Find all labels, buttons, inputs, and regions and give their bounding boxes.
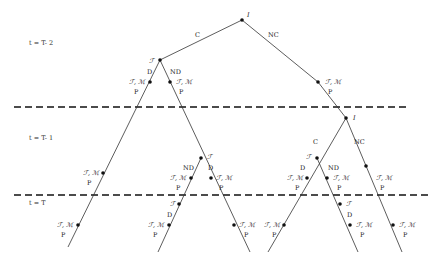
edge-NC	[242, 20, 318, 82]
label-P-tm1-left: P	[87, 180, 91, 187]
label-F-left: ℱ	[149, 58, 154, 65]
node-FM-left-ND	[168, 80, 172, 84]
node-FM-T-3	[232, 223, 236, 227]
label-FM-mid-D: ℱ, ℳ	[216, 175, 232, 182]
label-P-NC: P	[328, 89, 332, 96]
node-F-T-right	[338, 202, 342, 206]
label-P-right-ND: P	[337, 185, 341, 192]
node-FM-right-NC	[364, 164, 368, 168]
edge-D-left	[68, 60, 160, 247]
label-FM-T-3: ℱ, ℳ	[239, 222, 255, 229]
label-P-T-4: P	[272, 232, 276, 239]
node-root-I	[240, 18, 244, 22]
label-F-mid: ℱ	[207, 154, 212, 161]
label-root-I: I	[247, 12, 250, 19]
node-FM-T-2	[167, 223, 171, 227]
label-P-T-2: P	[153, 232, 157, 239]
node-FM-mid-ND	[189, 176, 193, 180]
edge-C-right	[268, 118, 346, 252]
node-F-left	[158, 58, 162, 62]
label-FM-left-D: ℱ, ℳ	[129, 79, 145, 86]
label-edge-D-left: D	[147, 69, 152, 76]
node-FM-right-D	[305, 176, 309, 180]
period-label-T: t = T	[29, 200, 46, 207]
label-FM-T-6: ℱ, ℳ	[399, 222, 415, 229]
label-P-left-ND: P	[179, 89, 183, 96]
edge-NC-cont	[318, 82, 346, 118]
node-F-right	[315, 156, 319, 160]
node-FM-left-D	[148, 80, 152, 84]
label-FM-T-4: ℱ, ℳ	[264, 222, 280, 229]
label-edge-C-right: C	[313, 139, 318, 146]
label-FM-T-1: ℱ, ℳ	[57, 222, 73, 229]
label-F-T-right: ℱ	[346, 201, 351, 208]
label-FM-left-ND: ℱ, ℳ	[176, 79, 192, 86]
label-edge-C: C	[195, 32, 200, 39]
label-FM-T-5: ℱ, ℳ	[356, 222, 372, 229]
label-P-right-NC: P	[380, 185, 384, 192]
label-FM-NC: ℱ, ℳ	[325, 79, 341, 86]
label-P-left-D: P	[134, 89, 138, 96]
node-I-right	[344, 116, 348, 120]
label-edge-D-T-right: D	[347, 212, 352, 219]
node-FM-T-1	[76, 223, 80, 227]
label-FM-tm1-left: ℱ, ℳ	[83, 170, 99, 177]
node-FM-mid-D	[209, 176, 213, 180]
label-FM-right-D: ℱ, ℳ	[287, 175, 303, 182]
node-FM-NC	[316, 80, 320, 84]
label-P-right-D: P	[295, 185, 299, 192]
node-FM-tm1-left	[101, 171, 105, 175]
label-P-mid-D: P	[219, 185, 223, 192]
label-F-T-mid: ℱ	[170, 201, 175, 208]
label-edge-D-right: D	[300, 165, 305, 172]
label-P-T-5: P	[360, 232, 364, 239]
node-F-mid	[199, 156, 203, 160]
label-P-T-6: P	[403, 232, 407, 239]
period-label-T-1: t = T- 1	[29, 135, 53, 142]
label-P-T-3: P	[244, 232, 248, 239]
label-P-T-1: P	[61, 232, 65, 239]
label-I-right: I	[353, 115, 356, 122]
label-edge-NC-right: NC	[354, 139, 365, 146]
period-label-T-2: t = T- 2	[29, 40, 53, 47]
game-tree-diagram: t = T- 2 t = T- 1 t = T I C NC ℱ D ND ℱ,…	[0, 0, 440, 261]
label-edge-NC: NC	[268, 32, 279, 39]
label-edge-ND-left: ND	[170, 69, 181, 76]
node-FM-T-5	[348, 223, 352, 227]
edge-ND-right	[317, 158, 358, 252]
label-FM-right-NC: ℱ, ℳ	[376, 175, 392, 182]
label-edge-ND-right: ND	[328, 165, 339, 172]
label-FM-right-ND: ℱ, ℳ	[333, 175, 349, 182]
label-FM-mid-ND: ℱ, ℳ	[170, 175, 186, 182]
label-edge-D-mid: D	[208, 165, 213, 172]
node-FM-T-4	[282, 223, 286, 227]
label-edge-ND-mid: ND	[183, 165, 194, 172]
node-FM-right-ND	[325, 176, 329, 180]
edge-C	[160, 20, 242, 60]
label-F-right: ℱ	[306, 154, 311, 161]
edge-ND-left	[160, 60, 250, 252]
node-F-T-mid	[177, 202, 181, 206]
label-edge-D-T-mid: D	[167, 212, 172, 219]
label-FM-T-2: ℱ, ℳ	[148, 222, 164, 229]
node-FM-T-6	[391, 223, 395, 227]
label-P-mid-ND: P	[176, 185, 180, 192]
